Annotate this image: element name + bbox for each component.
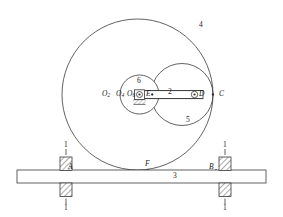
frame-support-left-bottom <box>60 183 72 205</box>
label-gear-large: 4 <box>199 21 203 29</box>
diagram-canvas <box>0 0 283 217</box>
label-point-F: F <box>145 160 150 168</box>
label-rack-3: 3 <box>173 172 177 180</box>
joint-D <box>191 91 197 97</box>
label-frame-right-bottom: 1 <box>223 204 227 212</box>
label-point-D: D <box>199 90 204 98</box>
kinematic-diagram: O2 O4 O6 E D C A B F 4 5 6 2 3 1 1 1 1 <box>0 0 283 217</box>
label-center-O4: O4 <box>116 90 124 99</box>
label-point-C: C <box>219 90 224 98</box>
label-frame-right-top: 1 <box>223 141 227 149</box>
point-marker-C <box>212 93 214 95</box>
frame-support-right-top <box>219 149 231 171</box>
joint-O6 <box>135 90 145 100</box>
label-link-2: 2 <box>168 88 172 96</box>
label-frame-left-top: 1 <box>64 141 68 149</box>
label-center-O6: O6 <box>127 90 135 99</box>
label-point-E: E <box>146 90 151 98</box>
rack-3-body <box>17 170 266 183</box>
label-point-B: B <box>209 163 214 171</box>
label-gear-small: 6 <box>137 77 141 85</box>
ground-support-icon <box>134 100 146 104</box>
point-marker-E <box>151 93 153 95</box>
frame-support-right-bottom <box>219 183 231 205</box>
label-center-O2: O2 <box>102 90 110 99</box>
label-frame-left-bottom: 1 <box>64 204 68 212</box>
label-gear-right: 5 <box>186 116 190 124</box>
label-point-A: A <box>68 163 73 171</box>
